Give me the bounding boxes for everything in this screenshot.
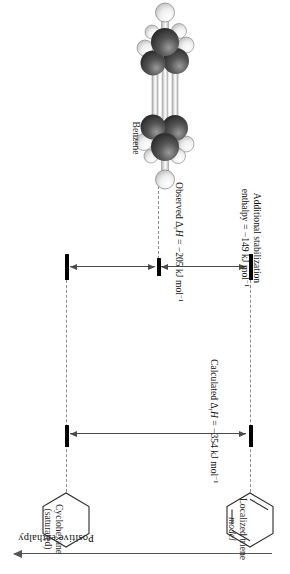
localized-triene-name-line2: model xyxy=(227,492,238,566)
guide-line-left xyxy=(250,265,251,492)
observed-enthalpy-arrow-head-left xyxy=(148,264,155,270)
cyclohexane-name-line2: (saturated) xyxy=(43,492,54,566)
additional-stabilization-arrow-head-right xyxy=(162,264,169,270)
observed-enthalpy-arrow-head-right xyxy=(71,264,78,270)
cyclohexane-name-line1: Cyclohexane xyxy=(54,492,65,566)
level-bar-localized-baseline xyxy=(249,425,253,447)
guide-line-right xyxy=(66,265,67,492)
level-bar-cyclohexane xyxy=(65,425,69,447)
level-bar-observed xyxy=(65,254,69,280)
figure-canvas: Positive enthalpy Additional stabilizati… xyxy=(0,0,290,574)
observed-enthalpy-arrow-line xyxy=(70,266,155,267)
additional-stabilization-line1: Additional stabilization xyxy=(252,186,263,290)
level-bar-benzene xyxy=(157,258,161,276)
calculated-enthalpy-arrow-head-right xyxy=(71,431,78,437)
arrow-up-icon xyxy=(13,550,22,558)
additional-stabilization-line2: enthalpy = −149 kJ mol−1 xyxy=(239,186,252,290)
localized-triene-name-line1: Localized triene xyxy=(238,492,249,566)
benzene-name: Benzene xyxy=(131,121,142,154)
calculated-enthalpy-arrow-head-left xyxy=(239,431,246,437)
